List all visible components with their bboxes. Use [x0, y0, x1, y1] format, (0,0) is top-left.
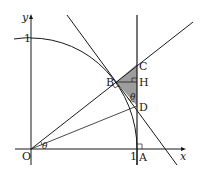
y-axis-label: y [21, 11, 29, 24]
angle-label-d: θ [130, 92, 136, 102]
x-axis-label: x [180, 150, 187, 163]
tangent-line-at-b [67, 15, 177, 165]
unit-circle-arc [14, 38, 137, 165]
angle-label-o: θ [42, 141, 48, 151]
point-label-a: A [138, 151, 148, 164]
point-label-c: C [139, 60, 147, 73]
y-tick-label: 1 [24, 32, 31, 45]
point-label-h: H [139, 76, 149, 89]
unit-circle-diagram: y 1 x O 1 A B C D H θ θ [0, 0, 203, 174]
point-label-b: B [106, 76, 114, 89]
y-axis-arrow-icon [29, 14, 33, 19]
right-angle-mark-a [137, 144, 142, 149]
point-label-d: D [139, 101, 148, 114]
x-tick-label: 1 [130, 150, 137, 163]
origin-label: O [22, 150, 31, 163]
